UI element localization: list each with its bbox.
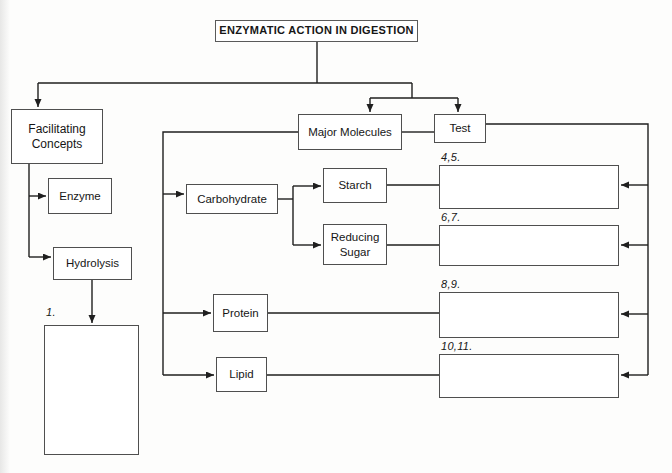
node-test: Test bbox=[434, 114, 486, 143]
edges-carbohydrate-branch bbox=[278, 186, 321, 245]
node-lipid: Lipid bbox=[216, 357, 267, 392]
answer-slot-1011-box bbox=[439, 354, 619, 398]
answer-slot-67-box bbox=[439, 225, 619, 266]
node-facilitating-concepts: Facilitating Concepts bbox=[11, 109, 103, 164]
node-major-molecules-label: Major Molecules bbox=[308, 125, 392, 139]
answer-slot-67-number: 6,7. bbox=[441, 211, 461, 223]
node-reducing-sugar: Reducing Sugar bbox=[323, 224, 387, 265]
node-protein-label: Protein bbox=[222, 306, 258, 320]
answer-slot-1-number: 1. bbox=[46, 306, 56, 318]
node-major-molecules: Major Molecules bbox=[298, 114, 402, 150]
answer-slot-1011-number: 10,11. bbox=[441, 340, 473, 352]
edges-left-rail bbox=[163, 132, 298, 375]
node-facilitating-concepts-label: Facilitating Concepts bbox=[15, 122, 99, 152]
answer-slot-89-box bbox=[439, 292, 619, 338]
node-reducing-sugar-label: Reducing Sugar bbox=[327, 230, 383, 259]
node-enzyme-label: Enzyme bbox=[59, 189, 101, 203]
title-box: ENZYMATIC ACTION IN DIGESTION bbox=[215, 20, 418, 42]
node-starch: Starch bbox=[323, 168, 387, 203]
node-starch-label: Starch bbox=[338, 178, 371, 192]
node-test-label: Test bbox=[449, 121, 470, 135]
flowchart-page: ENZYMATIC ACTION IN DIGESTION Facilitati… bbox=[0, 0, 672, 473]
answer-slot-89-number: 8,9. bbox=[441, 278, 461, 290]
answer-slot-45-number: 4,5. bbox=[441, 151, 461, 163]
node-carbohydrate: Carbohydrate bbox=[186, 184, 278, 214]
answer-slot-1-box bbox=[44, 325, 139, 455]
node-enzyme: Enzyme bbox=[48, 178, 112, 214]
node-hydrolysis: Hydrolysis bbox=[53, 247, 132, 280]
node-protein: Protein bbox=[213, 294, 268, 332]
node-carbohydrate-label: Carbohydrate bbox=[197, 192, 267, 206]
answer-slot-45-box bbox=[439, 165, 619, 209]
title-label: ENZYMATIC ACTION IN DIGESTION bbox=[219, 24, 413, 38]
node-hydrolysis-label: Hydrolysis bbox=[66, 256, 119, 270]
node-lipid-label: Lipid bbox=[229, 367, 253, 381]
